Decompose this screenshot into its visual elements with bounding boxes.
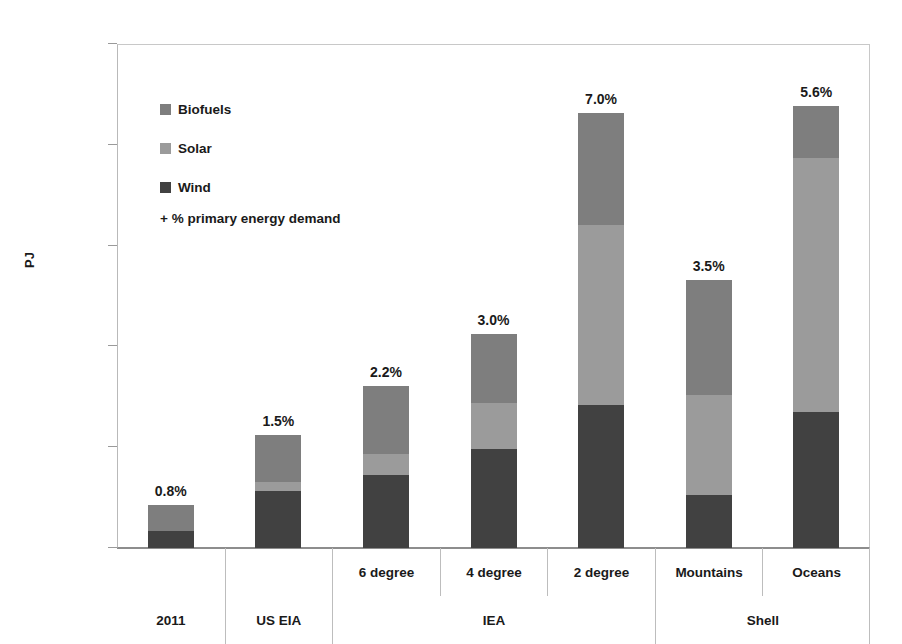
bar-stack [793,106,839,549]
bar-value-label: 5.6% [800,84,832,100]
category-group-label: IEA [332,596,655,644]
legend: Biofuels Solar Wind + % primary energy d… [160,102,340,226]
bar-stack [578,113,624,548]
legend-item-biofuels: Biofuels [160,102,340,116]
bar-column[interactable]: 1.5% [255,435,301,548]
category-sublabel: 4 degree [440,548,548,596]
bar-segment-wind[interactable] [255,491,301,548]
bar-segment-biofuels[interactable] [471,334,517,403]
bar-segment-wind[interactable] [148,531,194,548]
category-row-sub: 6 degree4 degree2 degreeMountainsOceans [117,548,870,596]
category-axis: 6 degree4 degree2 degreeMountainsOceans … [117,548,870,644]
legend-label-biofuels: Biofuels [178,102,231,117]
bar-value-label: 7.0% [585,91,617,107]
bar-segment-wind[interactable] [793,412,839,548]
category-group-label: 2011 [117,596,225,644]
bar-column[interactable]: 7.0% [578,113,624,548]
bar-value-label: 3.0% [478,312,510,328]
bar-segment-solar[interactable] [793,158,839,412]
bar-segment-wind[interactable] [471,449,517,548]
category-sublabel: Oceans [762,548,870,596]
category-separator [869,596,870,644]
bar-segment-wind[interactable] [578,405,624,548]
bar-column[interactable]: 5.6% [793,106,839,549]
bar-stack [363,386,409,548]
bar-segment-biofuels[interactable] [793,106,839,158]
category-sublabel: Mountains [655,548,763,596]
bar-segment-solar[interactable] [363,454,409,475]
category-sublabel [117,548,225,596]
bar-segment-solar[interactable] [686,395,732,495]
category-group-label: US EIA [225,596,333,644]
bar-segment-biofuels[interactable] [363,386,409,455]
category-group-label: Shell [655,596,870,644]
legend-swatch-wind [160,182,171,193]
legend-swatch-biofuels [160,104,171,115]
bar-segment-solar[interactable] [255,482,301,490]
bar-segment-solar[interactable] [578,225,624,404]
category-sublabel [225,548,333,596]
bar-segment-solar[interactable] [471,403,517,449]
bar-stack [255,435,301,548]
bar-column[interactable]: 3.5% [686,280,732,548]
legend-item-wind: Wind [160,180,340,194]
category-row-main: 2011US EIAIEAShell [117,596,870,644]
bar-segment-biofuels[interactable] [255,435,301,482]
bar-stack [148,505,194,548]
legend-swatch-solar [160,143,171,154]
bar-segment-biofuels[interactable] [578,113,624,226]
bar-segment-wind[interactable] [363,475,409,548]
bar-column[interactable]: 2.2% [363,386,409,548]
bar-segment-biofuels[interactable] [686,280,732,395]
legend-item-solar: Solar [160,141,340,155]
bar-stack [471,334,517,548]
bar-value-label: 3.5% [693,258,725,274]
bar-segment-wind[interactable] [686,495,732,548]
stacked-bar-chart: PJ 50 00040 00030 00020 00010 0000 0.8%1… [0,0,902,644]
bar-segment-biofuels[interactable] [148,505,194,531]
bar-stack [686,280,732,548]
bar-value-label: 0.8% [155,483,187,499]
bar-value-label: 2.2% [370,364,402,380]
legend-label-wind: Wind [178,180,211,195]
bar-value-label: 1.5% [262,413,294,429]
bar-column[interactable]: 3.0% [471,334,517,548]
category-separator [869,548,870,596]
legend-note: + % primary energy demand [160,211,340,226]
legend-label-solar: Solar [178,141,212,156]
bar-column[interactable]: 0.8% [148,505,194,548]
category-sublabel: 2 degree [547,548,655,596]
category-sublabel: 6 degree [332,548,440,596]
